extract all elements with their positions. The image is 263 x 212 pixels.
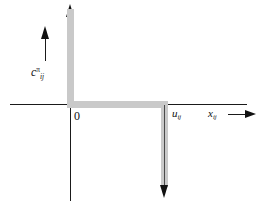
arrow-down-icon [160, 185, 168, 198]
upper-bound-label: uij [172, 108, 181, 121]
arrow-right-icon [245, 110, 256, 118]
x-axis-label: xij [208, 108, 216, 121]
figure-canvas: cπij 0 uij xij [0, 0, 263, 212]
y-axis-label-subscript: ij [40, 72, 44, 81]
upper-bound-label-subscript: ij [178, 113, 182, 120]
y-axis-label: cπij [31, 66, 44, 80]
step-upward-ray [67, 9, 74, 108]
x-axis-label-subscript: ij [213, 113, 217, 120]
arrow-up-icon [41, 26, 49, 39]
step-zero-plateau [67, 101, 168, 108]
downward-ray-stroke [164, 105, 165, 187]
origin-label: 0 [74, 110, 80, 122]
